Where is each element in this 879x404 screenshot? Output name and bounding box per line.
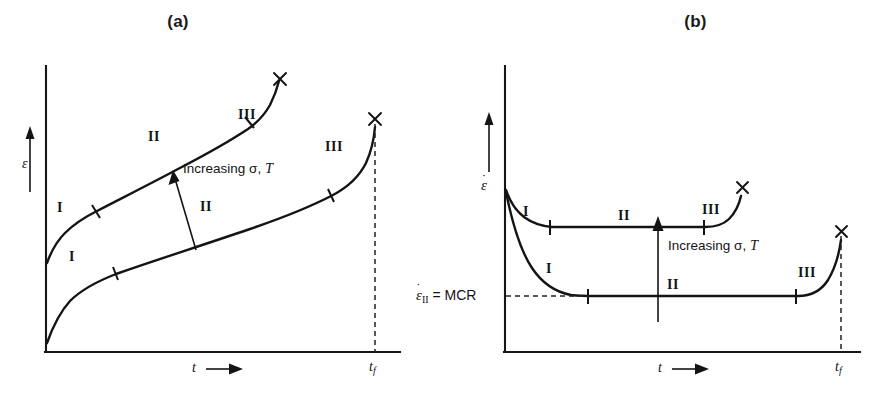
panel-a-increasing-annotation: Increasing σ, T — [183, 161, 273, 176]
panel-a-upper-stage-III: III — [238, 108, 256, 122]
panel-b-upper-rupture-marker — [737, 182, 748, 193]
panel-b-lower-stage-III: III — [798, 266, 816, 280]
panel-a-upper-stage-II: II — [148, 130, 160, 144]
panel-b-tf-label: tf — [835, 360, 842, 376]
panel-a-strain-vs-time: (a) — [0, 0, 440, 404]
panel-a-lower-stage-I: I — [69, 250, 75, 264]
panel-b-increasing-annotation: Increasing σ, T — [668, 238, 758, 253]
creep-figure: (a) — [0, 0, 879, 404]
panel-a-temperature-symbol: T — [265, 160, 273, 176]
panel-a-lower-rupture-marker — [369, 113, 381, 125]
panel-b-strain-rate-vs-time: (b) — [440, 0, 879, 404]
panel-a-lower-stage-III: III — [325, 140, 343, 154]
panel-b-x-axis-label: t — [658, 361, 662, 375]
panel-b-lower-rupture-marker — [836, 226, 847, 237]
panel-a-upper-rupture-marker — [274, 73, 286, 85]
panel-a-upper-stage-tick-1 — [92, 205, 100, 218]
panel-a-tf-sub: f — [373, 365, 376, 376]
panel-b-lower-stage-I: I — [546, 262, 552, 276]
panel-a-increasing-arrow — [169, 170, 197, 250]
panel-b-temperature-symbol: T — [750, 237, 758, 253]
panel-b-lower-stage-II: II — [667, 278, 679, 292]
panel-a-y-axis-label: ε — [22, 157, 28, 171]
panel-b-mcr-subscript: II — [422, 294, 429, 305]
panel-b-y-axis-dot: ˙ — [482, 172, 486, 185]
panel-b-increasing-arrow — [653, 216, 664, 322]
panel-a-annotation-comma: , — [257, 161, 265, 176]
panel-a-x-axis-label: t — [192, 361, 196, 375]
panel-b-mcr-dot: ˙ — [417, 282, 421, 295]
panel-a-upper-stage-I: I — [57, 201, 63, 215]
panel-b-mcr-label: ε ˙ II = MCR — [416, 288, 476, 305]
panel-b-upper-stage-I: I — [523, 205, 529, 219]
panel-b-y-axis-label: ε ˙ — [481, 178, 487, 193]
panel-b-annotation-comma: , — [742, 238, 750, 253]
panel-b-x-axis-arrow — [672, 364, 709, 375]
panel-a-plot — [0, 0, 440, 404]
panel-a-lower-stage-II: II — [200, 200, 212, 214]
panel-a-x-axis-arrow — [206, 364, 243, 375]
panel-a-increasing-text: Increasing — [183, 161, 249, 176]
panel-b-y-axis-arrow — [485, 112, 494, 172]
panel-b-increasing-text: Increasing — [668, 238, 734, 253]
panel-a-curve-low-stress — [47, 127, 375, 343]
panel-b-upper-stage-III: III — [702, 203, 720, 217]
panel-a-tf-label: tf — [369, 360, 376, 376]
panel-b-tf-sub: f — [839, 365, 842, 376]
panel-b-upper-stage-II: II — [618, 209, 630, 223]
panel-b-plot — [440, 0, 879, 404]
panel-b-mcr-equals-text: = MCR — [429, 287, 477, 303]
